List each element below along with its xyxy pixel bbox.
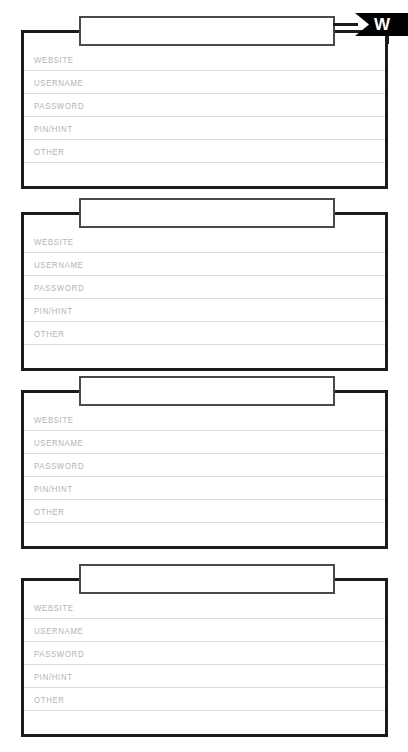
field-value-pin-hint — [98, 117, 379, 140]
entry-field-list: WEBSITE USERNAME PASSWORD PIN/HINT OTHER — [24, 393, 385, 546]
field-value-username — [98, 253, 379, 276]
field-label-website: WEBSITE — [34, 48, 74, 71]
field-value-website — [98, 48, 379, 71]
field-value-pin-hint — [98, 665, 379, 688]
password-log-sheet: WEBSITE USERNAME PASSWORD PIN/HINT OTHER — [0, 0, 408, 752]
field-value-password — [98, 94, 379, 117]
field-row-other[interactable]: OTHER — [24, 688, 385, 711]
field-label-username: USERNAME — [34, 431, 83, 454]
field-row-username[interactable]: USERNAME — [24, 619, 385, 642]
field-value-other — [98, 322, 379, 345]
field-label-website: WEBSITE — [34, 596, 74, 619]
field-label-pin-hint: PIN/HINT — [34, 665, 73, 688]
field-row-password[interactable]: PASSWORD — [24, 276, 385, 299]
entry-title-field[interactable] — [79, 376, 335, 406]
field-row-password[interactable]: PASSWORD — [24, 642, 385, 665]
field-row-blank[interactable] — [24, 163, 385, 186]
field-value-blank — [98, 345, 379, 368]
field-value-blank — [98, 711, 379, 734]
field-row-other[interactable]: OTHER — [24, 140, 385, 163]
field-row-username[interactable]: USERNAME — [24, 431, 385, 454]
field-value-website — [98, 230, 379, 253]
index-tab-letter: W — [372, 13, 392, 36]
field-label-pin-hint: PIN/HINT — [34, 117, 73, 140]
field-label-website: WEBSITE — [34, 408, 74, 431]
field-label-other: OTHER — [34, 322, 65, 345]
entry-title-value — [81, 200, 333, 226]
entry-title-field[interactable] — [79, 198, 335, 228]
entry-field-list: WEBSITE USERNAME PASSWORD PIN/HINT OTHER — [24, 581, 385, 734]
field-row-password[interactable]: PASSWORD — [24, 94, 385, 117]
field-row-pin-hint[interactable]: PIN/HINT — [24, 665, 385, 688]
field-value-pin-hint — [98, 299, 379, 322]
field-row-pin-hint[interactable]: PIN/HINT — [24, 117, 385, 140]
field-value-password — [98, 454, 379, 477]
entry-title-value — [81, 378, 333, 404]
field-value-other — [98, 500, 379, 523]
field-value-username — [98, 71, 379, 94]
field-row-other[interactable]: OTHER — [24, 322, 385, 345]
field-value-pin-hint — [98, 477, 379, 500]
entry-title-field[interactable] — [79, 16, 335, 46]
field-value-password — [98, 276, 379, 299]
password-entry-card: WEBSITE USERNAME PASSWORD PIN/HINT OTHER — [21, 212, 388, 371]
field-label-password: PASSWORD — [34, 642, 84, 665]
password-entry-card: WEBSITE USERNAME PASSWORD PIN/HINT OTHER — [21, 30, 388, 189]
field-label-username: USERNAME — [34, 253, 83, 276]
field-value-username — [98, 619, 379, 642]
field-label-other: OTHER — [34, 500, 65, 523]
field-label-password: PASSWORD — [34, 94, 84, 117]
field-label-pin-hint: PIN/HINT — [34, 299, 73, 322]
field-value-other — [98, 140, 379, 163]
field-label-other: OTHER — [34, 688, 65, 711]
field-value-password — [98, 642, 379, 665]
field-value-other — [98, 688, 379, 711]
index-tab-w[interactable]: W — [355, 13, 408, 36]
entry-title-value — [81, 566, 333, 592]
field-value-username — [98, 431, 379, 454]
field-label-website: WEBSITE — [34, 230, 74, 253]
field-row-pin-hint[interactable]: PIN/HINT — [24, 477, 385, 500]
password-entry-card: WEBSITE USERNAME PASSWORD PIN/HINT OTHER — [21, 578, 388, 737]
field-label-username: USERNAME — [34, 619, 83, 642]
field-row-other[interactable]: OTHER — [24, 500, 385, 523]
field-row-blank[interactable] — [24, 711, 385, 734]
field-row-blank[interactable] — [24, 523, 385, 546]
field-label-pin-hint: PIN/HINT — [34, 477, 73, 500]
field-value-blank — [98, 523, 379, 546]
entry-title-value — [81, 18, 333, 44]
field-row-pin-hint[interactable]: PIN/HINT — [24, 299, 385, 322]
field-row-blank[interactable] — [24, 345, 385, 368]
field-label-username: USERNAME — [34, 71, 83, 94]
field-row-username[interactable]: USERNAME — [24, 253, 385, 276]
field-row-website[interactable]: WEBSITE — [24, 408, 385, 431]
field-row-website[interactable]: WEBSITE — [24, 596, 385, 619]
field-row-website[interactable]: WEBSITE — [24, 230, 385, 253]
field-value-blank — [98, 163, 379, 186]
field-label-password: PASSWORD — [34, 276, 84, 299]
entry-field-list: WEBSITE USERNAME PASSWORD PIN/HINT OTHER — [24, 33, 385, 186]
field-row-username[interactable]: USERNAME — [24, 71, 385, 94]
password-entry-card: WEBSITE USERNAME PASSWORD PIN/HINT OTHER — [21, 390, 388, 549]
field-value-website — [98, 596, 379, 619]
entry-field-list: WEBSITE USERNAME PASSWORD PIN/HINT OTHER — [24, 215, 385, 368]
field-value-website — [98, 408, 379, 431]
field-row-password[interactable]: PASSWORD — [24, 454, 385, 477]
field-label-password: PASSWORD — [34, 454, 84, 477]
field-row-website[interactable]: WEBSITE — [24, 48, 385, 71]
entry-title-field[interactable] — [79, 564, 335, 594]
field-label-other: OTHER — [34, 140, 65, 163]
